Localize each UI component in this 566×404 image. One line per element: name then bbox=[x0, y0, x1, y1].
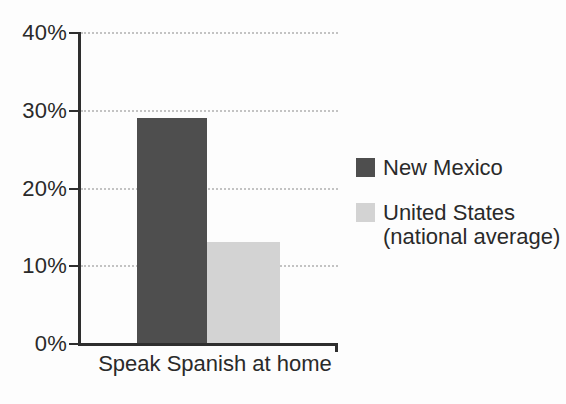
bar-new-mexico bbox=[137, 118, 207, 343]
gridline-40pct bbox=[81, 32, 338, 34]
gridline-30pct bbox=[81, 110, 338, 112]
y-tick-20pct bbox=[69, 188, 79, 190]
legend-label-united-states-line2: (national average) bbox=[383, 224, 560, 249]
y-tick-label-10pct: 10% bbox=[0, 254, 67, 278]
legend-label-united-states-line1: United States bbox=[383, 200, 515, 225]
legend-label-united-states: United States (national average) bbox=[383, 201, 560, 249]
y-tick-label-30pct: 30% bbox=[0, 99, 67, 123]
x-category-label: Speak Spanish at home bbox=[80, 351, 350, 377]
y-tick-label-40pct: 40% bbox=[0, 21, 67, 45]
y-tick-0pct bbox=[69, 343, 79, 345]
y-tick-label-0pct: 0% bbox=[0, 332, 67, 356]
x-axis-end-tick bbox=[335, 343, 338, 352]
legend-swatch-united-states-icon bbox=[356, 203, 375, 222]
legend: New Mexico United States (national avera… bbox=[356, 156, 560, 249]
legend-item-new-mexico: New Mexico bbox=[356, 156, 560, 180]
bar-chart: 40% 30% 20% 10% 0% Speak Spanish at home… bbox=[0, 0, 566, 404]
gridline-20pct bbox=[81, 188, 338, 190]
y-tick-label-20pct: 20% bbox=[0, 177, 67, 201]
x-axis-line bbox=[78, 343, 338, 346]
y-tick-40pct bbox=[69, 32, 79, 34]
legend-label-new-mexico: New Mexico bbox=[383, 156, 503, 180]
legend-item-united-states: United States (national average) bbox=[356, 201, 560, 249]
legend-swatch-new-mexico-icon bbox=[356, 158, 375, 177]
y-tick-10pct bbox=[69, 265, 79, 267]
y-tick-30pct bbox=[69, 110, 79, 112]
bar-united-states bbox=[207, 242, 280, 343]
